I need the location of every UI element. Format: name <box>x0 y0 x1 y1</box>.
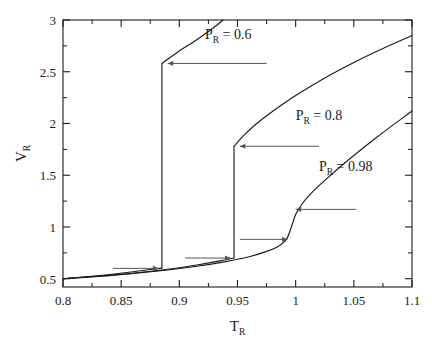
line-chart: 0.80.850.90.9511.051.10.511.522.53PR = 0… <box>0 0 432 344</box>
x-tick-label: 0.95 <box>226 293 249 308</box>
y-tick-label: 2.5 <box>40 65 56 80</box>
x-tick-label: 0.8 <box>55 293 71 308</box>
figure-root: 0.80.850.90.9511.051.10.511.522.53PR = 0… <box>0 0 432 344</box>
x-tick-label: 0.85 <box>110 293 133 308</box>
x-axis-title: TR <box>230 318 246 337</box>
y-tick-label: 3 <box>50 13 57 28</box>
x-tick-label: 0.9 <box>171 293 187 308</box>
series-label-1: PR = 0.8 <box>296 108 343 126</box>
series-label-2: PR = 0.98 <box>319 159 373 177</box>
x-tick-label: 1 <box>292 293 299 308</box>
y-tick-label: 1.5 <box>40 168 56 183</box>
series-label-0: PR = 0.6 <box>205 27 252 45</box>
arrow-upper-08-head <box>240 144 246 149</box>
y-tick-label: 1 <box>50 220 57 235</box>
x-tick-label: 1.05 <box>342 293 365 308</box>
y-tick-label: 0.5 <box>40 272 56 287</box>
curve-2 <box>63 111 412 279</box>
y-tick-label: 2 <box>50 116 57 131</box>
curve-upper-1 <box>234 36 412 147</box>
arrow-upper-06-head <box>168 61 174 66</box>
x-tick-label: 1.1 <box>404 293 420 308</box>
y-axis-title: VR <box>13 144 32 162</box>
arrow-upper-098-head <box>296 207 302 212</box>
